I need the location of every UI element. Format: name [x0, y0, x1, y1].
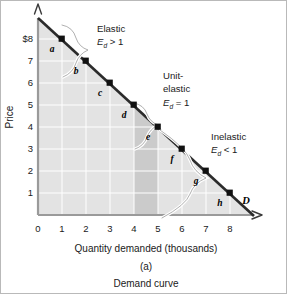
y-tick-8: $8	[22, 33, 33, 44]
data-point-c	[107, 80, 113, 86]
elastic-formula-rest: > 1	[107, 36, 123, 47]
y-tick-3: 3	[28, 143, 33, 154]
y-tick-1: 1	[28, 187, 33, 198]
y-tick-2: 2	[28, 165, 33, 176]
point-label-g: g	[193, 176, 199, 186]
y-axis-arrow-icon	[35, 4, 42, 14]
data-point-b	[83, 58, 89, 64]
elastic-region-label: Elastic	[97, 23, 125, 34]
y-tick-7: 7	[28, 55, 33, 66]
y-tick-5: 5	[28, 99, 33, 110]
data-point-e	[155, 124, 161, 130]
unit-elastic-region-label-line2: elastic	[163, 83, 190, 94]
x-tick-0: 0	[35, 223, 40, 234]
demand-curve-label: D	[241, 195, 250, 206]
point-label-a: a	[50, 44, 55, 54]
x-tick-6: 6	[179, 223, 184, 234]
data-point-g	[203, 168, 209, 174]
panel-id: (a)	[140, 261, 152, 272]
x-tick-8: 8	[227, 223, 232, 234]
y-tick-6: 6	[28, 77, 33, 88]
inelastic-region-label: Inelastic	[211, 131, 246, 142]
inelastic-region-formula: Ed < 1	[211, 144, 237, 157]
point-label-h: h	[217, 198, 222, 208]
x-tick-1: 1	[59, 223, 64, 234]
x-tick-7: 7	[203, 223, 208, 234]
elastic-region-formula: Ed > 1	[97, 36, 123, 49]
x-tick-4: 4	[131, 223, 136, 234]
y-tick-4: 4	[28, 121, 33, 132]
unit-elastic-formula-rest: = 1	[173, 97, 189, 108]
inelastic-formula-rest: < 1	[221, 144, 237, 155]
figure-caption: Demand curve	[113, 278, 178, 289]
x-tick-5: 5	[155, 223, 160, 234]
point-label-b: b	[74, 66, 79, 76]
y-axis-title: Price	[4, 105, 15, 128]
point-label-d: d	[122, 110, 127, 120]
data-point-f	[179, 146, 185, 152]
demand-curve-chart: a b c d e f g h D $8 7 6 5 4 3 2 1 0 1 2…	[0, 0, 288, 295]
x-tick-2: 2	[83, 223, 88, 234]
unit-elastic-region-formula: Ed = 1	[163, 97, 189, 110]
x-axis-title: Quantity demanded (thousands)	[75, 243, 218, 254]
data-point-h	[227, 190, 233, 196]
demand-curve-figure: a b c d e f g h D $8 7 6 5 4 3 2 1 0 1 2…	[0, 0, 288, 295]
x-tick-3: 3	[107, 223, 112, 234]
data-point-d	[131, 102, 137, 108]
data-point-a	[59, 36, 65, 42]
unit-elastic-region-label-line1: Unit-	[163, 70, 183, 81]
